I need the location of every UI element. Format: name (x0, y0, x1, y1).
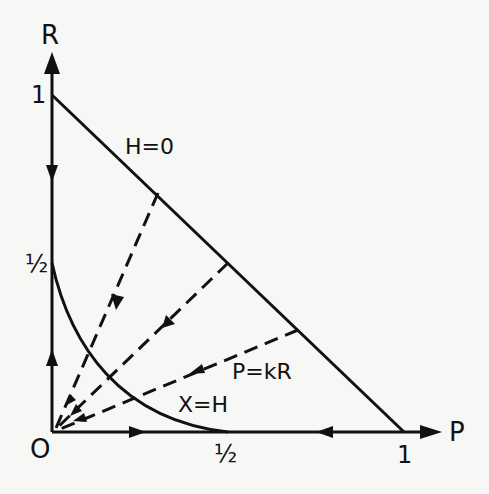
label-p-equals-kr: P=kR (232, 361, 292, 383)
dashed-rays-p-equals-kr (56, 193, 298, 430)
ray1-mid-arrow-icon (111, 294, 124, 310)
flow-arrow-left-icon (316, 426, 333, 438)
p-tick-half: ½ (214, 442, 237, 466)
ray3-near-arrow-icon (73, 413, 87, 422)
phase-diagram: R P O 1 ½ ½ 1 H=0 P=kR X=H (0, 0, 489, 494)
p-tick-one: 1 (397, 443, 412, 467)
r-tick-one: 1 (31, 83, 46, 107)
r-axis-arrowhead-icon (44, 52, 60, 74)
r-axis-label: R (41, 22, 59, 48)
label-h-equals-0: H=0 (125, 136, 174, 158)
origin-label: O (30, 436, 50, 462)
flow-arrow-down-icon (46, 165, 58, 182)
r-tick-half: ½ (25, 252, 48, 276)
r-axis (44, 52, 60, 432)
flow-arrow-right-icon (129, 426, 146, 438)
p-axis-arrowhead-icon (420, 425, 442, 439)
diagram-drawing (0, 0, 489, 494)
p-axis (52, 425, 442, 439)
p-axis-label: P (449, 419, 465, 445)
ray3-mid-arrow-icon (189, 364, 205, 374)
flow-arrow-up-icon (46, 349, 58, 366)
dashed-ray-1 (56, 193, 158, 428)
label-x-equals-h: X=H (178, 394, 228, 416)
